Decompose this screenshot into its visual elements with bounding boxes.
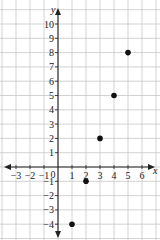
y-tick-label: 6 [49,76,54,87]
y-tick-label: 10 [44,19,54,30]
y-tick-label: −2 [43,190,54,201]
y-tick-label: 4 [49,104,54,115]
arrow-down-icon [55,231,61,238]
y-tick-label: −3 [43,204,54,215]
x-tick-label: −2 [25,170,36,181]
data-point [69,221,75,227]
x-tick-label: 3 [98,170,103,181]
y-tick-label: −1 [43,176,54,187]
grid-lines [0,0,160,240]
y-tick-label: 1 [49,147,54,158]
x-axis-label: x [152,165,158,176]
x-tick-label: 5 [126,170,131,181]
data-point [125,50,131,56]
y-tick-label: 5 [49,90,54,101]
arrow-up-icon [55,8,61,15]
data-point [97,136,103,142]
y-tick-label: 2 [49,133,54,144]
y-tick-label: 8 [49,47,54,58]
x-tick-label: 1 [70,170,75,181]
coordinate-plane: −3−2−10123456−4−3−2−112345678910 x y [0,0,160,240]
axes [4,8,155,238]
y-tick-label: 3 [49,119,54,130]
y-tick-label: 7 [49,61,54,72]
x-tick-label: 6 [140,170,145,181]
x-tick-label: 4 [112,170,117,181]
data-point [111,93,117,99]
y-tick-label: 9 [49,33,54,44]
y-tick-label: −4 [43,219,54,230]
x-tick-label: −3 [11,170,22,181]
data-point [83,179,89,185]
y-axis-label: y [50,4,56,15]
